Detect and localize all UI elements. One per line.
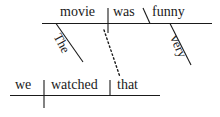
word-relative-subject: movie (60, 5, 95, 19)
word-main-subject: we (15, 78, 31, 92)
word-main-verb: watched (51, 78, 98, 92)
predicate-adjective-divider (143, 8, 150, 24)
word-predicate-adjective: funny (152, 5, 185, 19)
sentence-diagram: movie was funny The very we watched that (0, 0, 220, 117)
diagram-lines-layer (0, 0, 220, 117)
word-relative-verb: was (113, 5, 135, 19)
relative-clause-connector (104, 30, 120, 77)
word-direct-object: that (117, 78, 138, 92)
